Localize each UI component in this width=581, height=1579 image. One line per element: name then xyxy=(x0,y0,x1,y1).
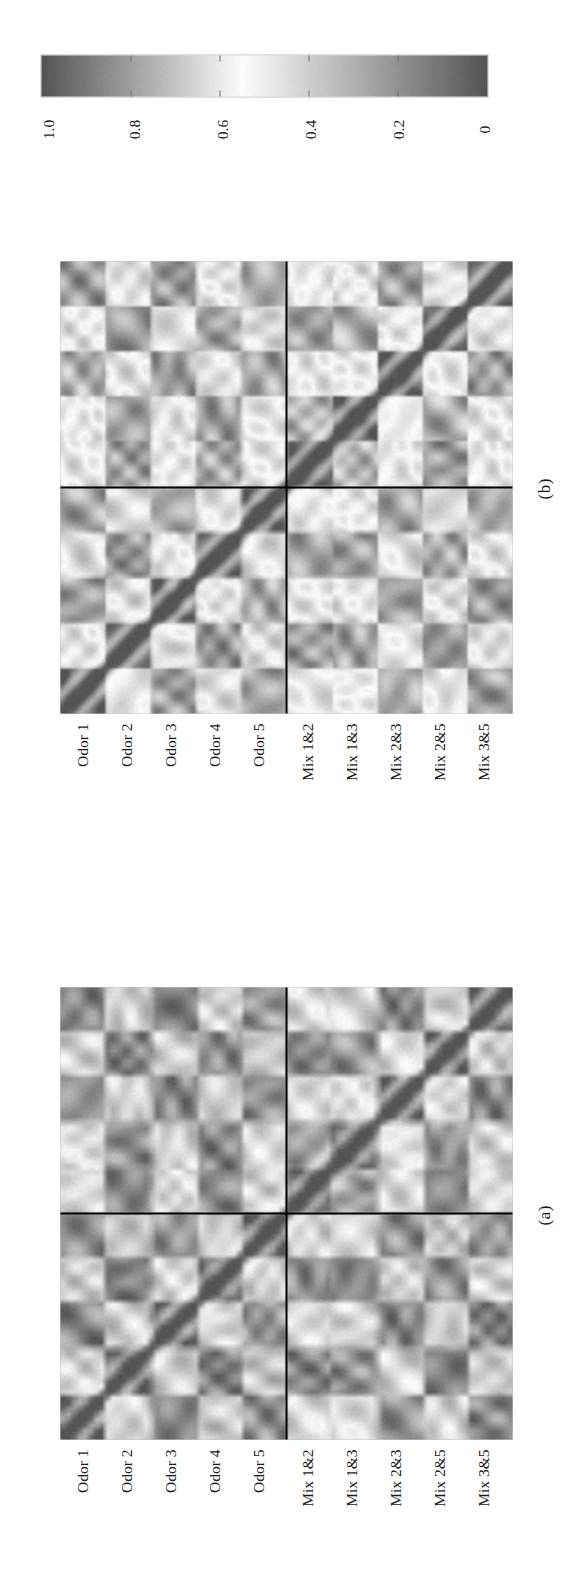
block-divider-horizontal xyxy=(285,987,287,1439)
row-label: Mix 3&5 xyxy=(475,1449,491,1506)
similarity-matrix-a[interactable] xyxy=(60,987,512,1439)
colorbar-group: 1.0 0.8 0.6 0.4 0.2 0 xyxy=(40,25,492,155)
row-label: Odor 1 xyxy=(74,723,90,766)
row-label: Odor 5 xyxy=(250,1449,266,1492)
row-label: Mix 2&5 xyxy=(431,723,447,780)
row-label: Mix 2&3 xyxy=(387,1449,403,1506)
row-label: Mix 1&2 xyxy=(299,723,315,780)
colorbar-tick xyxy=(397,90,398,96)
figure-stage: Odor 1 Odor 2 Odor 3 Odor 4 Odor 5 Mix 1… xyxy=(0,0,581,1579)
colorbar-tick-label: 0.4 xyxy=(302,119,318,138)
colorbar-tick xyxy=(308,90,309,96)
row-label: Mix 3&5 xyxy=(475,723,491,780)
colorbar-tick xyxy=(130,90,131,96)
panel-a-label: (a) xyxy=(534,1205,554,1225)
row-label: Mix 1&2 xyxy=(299,1449,315,1506)
row-label: Odor 4 xyxy=(206,1449,222,1492)
colorbar-tick xyxy=(130,55,131,61)
colorbar-tick xyxy=(308,55,309,61)
colorbar-tick-label: 1.0 xyxy=(40,119,56,138)
panel-a: Odor 1 Odor 2 Odor 3 Odor 4 Odor 5 Mix 1… xyxy=(20,865,580,1565)
colorbar[interactable] xyxy=(40,54,488,97)
row-label: Odor 3 xyxy=(162,1449,178,1492)
colorbar-tick-label: 0.2 xyxy=(390,119,406,138)
panel-a-row-labels: Odor 1 Odor 2 Odor 3 Odor 4 Odor 5 Mix 1… xyxy=(66,1449,510,1565)
row-label: Mix 1&3 xyxy=(343,1449,359,1506)
row-label: Odor 1 xyxy=(74,1449,90,1492)
colorbar-tick-label: 0 xyxy=(476,125,492,133)
panel-b-row-labels: Odor 1 Odor 2 Odor 3 Odor 4 Odor 5 Mix 1… xyxy=(66,723,510,839)
colorbar-tick xyxy=(219,90,220,96)
row-label: Odor 4 xyxy=(206,723,222,766)
colorbar-tick-label: 0.8 xyxy=(126,119,142,138)
panel-b-label: (b) xyxy=(534,478,554,499)
row-label: Odor 3 xyxy=(162,723,178,766)
block-divider-horizontal xyxy=(285,261,287,713)
row-label: Odor 2 xyxy=(118,723,134,766)
row-label: Mix 2&5 xyxy=(431,1449,447,1506)
colorbar-canvas xyxy=(41,55,487,96)
colorbar-tick-labels: 1.0 0.8 0.6 0.4 0.2 0 xyxy=(40,95,492,155)
row-label: Mix 1&3 xyxy=(343,723,359,780)
similarity-matrix-b[interactable] xyxy=(60,261,512,713)
colorbar-tick xyxy=(219,55,220,61)
row-label: Odor 5 xyxy=(250,723,266,766)
colorbar-tick-label: 0.6 xyxy=(214,119,230,138)
panel-b: Odor 1 Odor 2 Odor 3 Odor 4 Odor 5 Mix 1… xyxy=(20,139,580,839)
row-label: Mix 2&3 xyxy=(387,723,403,780)
colorbar-tick xyxy=(397,55,398,61)
row-label: Odor 2 xyxy=(118,1449,134,1492)
